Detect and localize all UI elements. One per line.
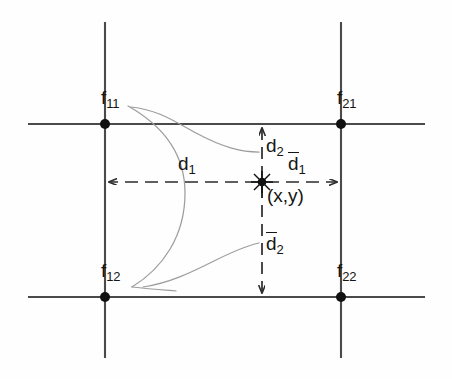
node-dot-f21 [336, 119, 346, 129]
corner-label-f11: f11 [101, 88, 119, 110]
grid-lines [28, 22, 425, 358]
corner-label-f22-sub: 22 [342, 269, 356, 284]
corner-label-f12-sub: 12 [106, 269, 120, 284]
corner-label-f22: f22 [337, 261, 356, 283]
distance-label-d2-base: d [266, 135, 277, 156]
corner-label-f21: f21 [337, 88, 356, 110]
distance-label-d1-bar: d1 [288, 152, 306, 176]
corner-label-f21-sub: 21 [342, 96, 356, 111]
bilinear-interpolation-diagram: f11 f21 f12 f22 d1 d1 d2 d2 (x,y) [0, 0, 452, 379]
node-dot-f22 [336, 292, 346, 302]
corner-label-f12: f12 [101, 261, 120, 283]
distance-label-d1-bar-sub: 1 [299, 162, 306, 177]
node-dot-f11 [100, 119, 110, 129]
sample-point-label: (x,y) [267, 186, 304, 205]
distance-label-d1-bar-base: d [288, 153, 299, 174]
distance-label-d2-sub: 2 [277, 144, 284, 159]
distance-label-d1: d1 [178, 154, 196, 176]
upper-curve [131, 107, 259, 152]
sample-point-label-text: (x,y) [267, 185, 304, 206]
distance-label-d2-bar: d2 [266, 232, 284, 256]
connecting-curve-lower-tail [132, 287, 176, 291]
node-dot-f12 [100, 292, 110, 302]
distance-label-d1-base: d [178, 153, 189, 174]
interpolation-curves [128, 106, 259, 291]
lower-curve [143, 243, 259, 287]
corner-node-dots [100, 119, 346, 302]
distance-label-d2: d2 [266, 136, 284, 158]
distance-label-d1-sub: 1 [189, 162, 196, 177]
distance-label-d2-bar-sub: 2 [277, 242, 284, 257]
distance-label-d2-bar-base: d [266, 233, 277, 254]
diagram-canvas [0, 0, 452, 379]
connecting-curve [128, 106, 185, 287]
corner-label-f11-sub: 11 [106, 96, 119, 111]
